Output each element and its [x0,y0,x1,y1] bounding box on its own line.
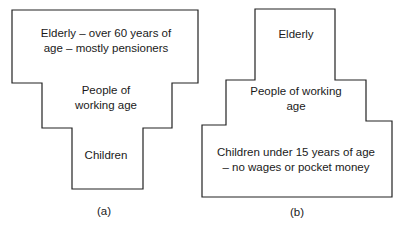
working-line2: age [250,99,341,114]
children-line2: – no wages or pocket money [217,160,375,175]
children-line1: Children [85,148,128,163]
working-line1: People of [75,83,137,98]
elderly-label-b: Elderly [278,27,313,42]
elderly-line1: Elderly – over 60 years of [41,26,171,41]
working-line1: People of working [250,84,341,99]
elderly-label-a: Elderly – over 60 years of age – mostly … [41,26,171,56]
children-label-a: Children [85,148,128,163]
children-label-b: Children under 15 years of age – no wage… [217,145,375,175]
working-label-b: People of working age [250,84,341,114]
working-label-a: People of working age [75,83,137,113]
caption-a: (a) [97,205,111,217]
elderly-line1: Elderly [278,27,313,42]
elderly-line2: age – mostly pensioners [41,41,171,56]
caption-b: (b) [290,206,304,218]
children-line1: Children under 15 years of age [217,145,375,160]
working-line2: working age [75,98,137,113]
